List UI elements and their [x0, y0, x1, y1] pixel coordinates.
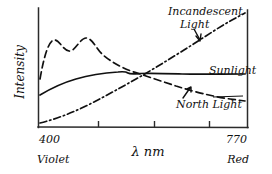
- x-axis-min-value: 400: [38, 133, 60, 146]
- x-axis-ticks: [99, 121, 210, 127]
- series-label-sunlight: Sunlight: [209, 64, 257, 77]
- chart-text-labels: Intensity λ nm 400 770 Violet Red Incand…: [13, 5, 257, 166]
- x-axis-label: λ nm: [130, 144, 164, 159]
- series-label-incandescent-line2: Light: [179, 18, 210, 31]
- spectral-intensity-chart: Intensity λ nm 400 770 Violet Red Incand…: [0, 0, 272, 174]
- series-label-incandescent-line1: Incandescent: [167, 5, 243, 18]
- series-label-north-light: North Light: [175, 98, 242, 111]
- x-axis-min-caption: Violet: [37, 153, 70, 166]
- chart-canvas: Intensity λ nm 400 770 Violet Red Incand…: [0, 0, 272, 174]
- x-axis-max-caption: Red: [226, 153, 249, 166]
- y-axis-label: Intensity: [13, 45, 27, 100]
- x-axis-max-value: 770: [226, 133, 247, 146]
- x-axis-line: [38, 127, 248, 128]
